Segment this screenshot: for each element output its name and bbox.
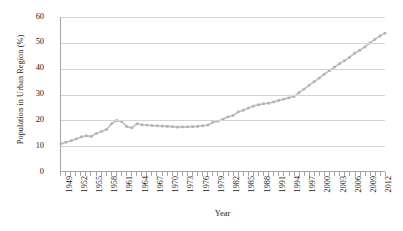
y-tick-label: 0 xyxy=(22,168,44,176)
data-point-marker xyxy=(348,56,351,59)
data-point-marker xyxy=(100,130,103,133)
data-point-marker xyxy=(252,105,255,108)
data-point-marker xyxy=(293,95,296,98)
data-point-marker xyxy=(363,46,366,49)
data-point-marker xyxy=(95,132,98,135)
data-point-marker xyxy=(262,102,265,105)
data-point-marker xyxy=(181,126,184,129)
data-point-marker xyxy=(85,135,88,138)
y-tick-label-group: 0102030405060 xyxy=(22,0,44,231)
data-point-marker xyxy=(176,126,179,129)
gridline xyxy=(61,120,385,121)
data-point-marker xyxy=(272,101,275,104)
x-tick-label: 1952 xyxy=(80,176,89,206)
x-tick-label: 1961 xyxy=(125,176,134,206)
urban-population-chart: Population in Urban Region (%) 010203040… xyxy=(0,0,403,231)
data-point-marker xyxy=(131,127,134,130)
data-point-marker xyxy=(146,124,149,127)
gridline xyxy=(61,146,385,147)
series-polyline xyxy=(61,33,385,144)
x-tick-label: 1967 xyxy=(156,176,165,206)
data-point-marker xyxy=(60,143,63,146)
data-point-marker xyxy=(353,52,356,55)
data-point-marker xyxy=(338,62,341,65)
x-tick-label: 1949 xyxy=(65,176,74,206)
data-point-marker xyxy=(70,139,73,142)
x-tick-label: 1976 xyxy=(202,176,211,206)
y-tick-label: 40 xyxy=(22,64,44,72)
data-point-marker xyxy=(186,126,189,129)
data-point-marker xyxy=(191,125,194,128)
data-point-marker xyxy=(379,35,382,38)
data-point-marker xyxy=(328,69,331,72)
data-point-marker xyxy=(105,128,108,131)
y-tick-label: 10 xyxy=(22,142,44,150)
x-tick-label: 1964 xyxy=(141,176,150,206)
data-point-marker xyxy=(227,116,230,119)
data-point-marker xyxy=(156,125,159,128)
data-point-marker xyxy=(75,138,78,141)
x-tick-label: 2006 xyxy=(354,176,363,206)
data-point-marker xyxy=(237,111,240,114)
data-point-marker xyxy=(136,122,139,125)
data-point-marker xyxy=(90,135,93,138)
data-point-marker xyxy=(308,84,311,87)
x-tick-label: 1997 xyxy=(308,176,317,206)
y-tick-label: 50 xyxy=(22,38,44,46)
gridline xyxy=(61,95,385,96)
data-point-marker xyxy=(171,125,174,128)
data-point-marker xyxy=(318,77,321,80)
x-tick-label: 1979 xyxy=(217,176,226,206)
x-tick-label: 2000 xyxy=(323,176,332,206)
data-point-marker xyxy=(358,49,361,52)
data-point-marker xyxy=(303,88,306,91)
data-point-marker xyxy=(288,97,291,100)
data-point-marker xyxy=(151,124,154,127)
data-point-marker xyxy=(343,59,346,62)
data-point-marker xyxy=(257,103,260,106)
x-tick-label: 1994 xyxy=(293,176,302,206)
x-tick-label: 1982 xyxy=(232,176,241,206)
x-tick-label: 1958 xyxy=(110,176,119,206)
x-tick-label: 1985 xyxy=(247,176,256,206)
x-tick-label-group: 1949195219551958196119641967197019731976… xyxy=(60,176,385,206)
data-point-marker xyxy=(323,73,326,76)
data-point-marker xyxy=(247,107,250,110)
data-point-marker xyxy=(212,121,215,124)
data-point-marker xyxy=(242,109,245,112)
data-point-marker xyxy=(313,80,316,83)
data-point-marker xyxy=(232,114,235,117)
data-point-marker xyxy=(126,125,129,128)
data-point-marker xyxy=(374,38,377,41)
data-point-marker xyxy=(207,124,210,127)
x-tick-label: 1988 xyxy=(263,176,272,206)
y-tick-label: 60 xyxy=(22,13,44,21)
x-tick-label: 1973 xyxy=(186,176,195,206)
plot-area xyxy=(60,17,385,172)
data-point-marker xyxy=(267,102,270,105)
data-point-marker xyxy=(201,125,204,128)
data-point-marker xyxy=(196,125,199,128)
y-tick-label: 20 xyxy=(22,116,44,124)
data-point-marker xyxy=(65,141,68,144)
data-point-marker xyxy=(141,124,144,127)
x-tick-label: 2009 xyxy=(369,176,378,206)
x-tick-label: 1991 xyxy=(278,176,287,206)
x-axis-title: Year xyxy=(60,209,385,218)
gridline xyxy=(61,69,385,70)
data-point-marker xyxy=(277,99,280,102)
x-tick-label: 1955 xyxy=(95,176,104,206)
x-tick-label: 2012 xyxy=(384,176,393,206)
data-point-marker xyxy=(166,125,169,128)
data-point-marker xyxy=(282,98,285,101)
gridline xyxy=(61,43,385,44)
data-point-marker xyxy=(80,136,83,139)
x-tick-label: 2003 xyxy=(339,176,348,206)
gridline xyxy=(61,17,385,18)
y-tick-label: 30 xyxy=(22,90,44,98)
x-tick-label: 1970 xyxy=(171,176,180,206)
data-point-marker xyxy=(161,125,164,128)
data-point-marker xyxy=(384,32,387,35)
data-point-marker xyxy=(110,122,113,125)
